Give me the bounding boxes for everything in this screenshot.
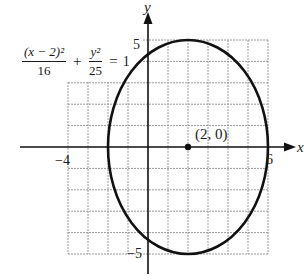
x-axis-arrow-icon — [284, 143, 296, 152]
y-term-denominator: 25 — [89, 62, 102, 79]
y-term-numerator: y² — [89, 44, 103, 62]
y-tick-bottom: −5 — [127, 247, 142, 261]
graph-canvas — [0, 0, 305, 280]
center-label: (2, 0) — [195, 127, 228, 142]
x-axis — [20, 143, 296, 152]
plus-sign: + — [73, 53, 81, 70]
y-axis-label: y — [144, 0, 151, 15]
x-term-denominator: 16 — [38, 62, 51, 79]
x-tick-left: −4 — [55, 154, 70, 168]
equation-rhs: 1 — [123, 54, 130, 70]
fraction-x-term: (x − 2)² 16 — [22, 44, 66, 79]
equals-sign: = — [109, 53, 117, 70]
ellipse-equation: (x − 2)² 16 + y² 25 = 1 — [20, 44, 130, 79]
x-tick-right: 6 — [266, 153, 273, 167]
y-tick-top: 5 — [133, 38, 140, 52]
x-axis-label: x — [297, 140, 304, 155]
center-point — [185, 144, 191, 150]
x-term-numerator: (x − 2)² — [22, 44, 66, 62]
fraction-y-term: y² 25 — [89, 44, 103, 79]
